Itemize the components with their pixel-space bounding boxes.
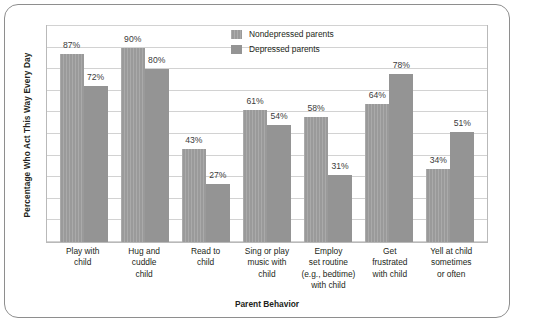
bar[interactable]: 87%	[60, 54, 84, 242]
x-tick-label: Employset routine(e.g., bedtime)with chi…	[298, 246, 359, 292]
x-axis-tick-labels: Play withchildHug andcuddlechildRead toc…	[46, 246, 488, 292]
bar[interactable]: 27%	[206, 184, 230, 242]
bar[interactable]: 78%	[389, 74, 413, 242]
bar[interactable]: 64%	[365, 104, 389, 242]
bar-value-label: 87%	[63, 40, 80, 50]
bar[interactable]: 61%	[243, 110, 267, 242]
bar-value-label: 54%	[270, 111, 287, 121]
bar-value-label: 58%	[308, 103, 325, 113]
bar-value-label: 78%	[393, 60, 410, 70]
bar-value-label: 72%	[87, 72, 104, 82]
x-axis-title: Parent Behavior	[46, 299, 488, 309]
x-tick-label: Read tochild	[175, 246, 236, 292]
bar[interactable]: 51%	[450, 132, 474, 242]
x-tick-label: Hug andcuddlechild	[113, 246, 174, 292]
bar-value-label: 80%	[148, 55, 165, 65]
bar[interactable]: 31%	[328, 175, 352, 242]
legend-swatch-icon	[231, 30, 242, 39]
y-axis-title-text: Percentage Who Act This Way Every Day	[22, 53, 32, 218]
bar-group: 34%51%	[420, 26, 481, 242]
x-tick-label: Getfrustratedwith child	[359, 246, 420, 292]
bar[interactable]: 34%	[426, 169, 450, 242]
bar[interactable]: 80%	[145, 69, 169, 242]
legend-swatch-icon	[231, 45, 242, 54]
bar[interactable]: 43%	[182, 149, 206, 242]
bar-value-label: 34%	[430, 155, 447, 165]
bar[interactable]: 58%	[304, 117, 328, 242]
legend-label: Depressed parents	[249, 44, 320, 54]
bar-value-label: 51%	[454, 118, 471, 128]
bar[interactable]: 54%	[267, 125, 291, 242]
chart-legend: Nondepressed parentsDepressed parents	[231, 29, 334, 59]
bar[interactable]: 90%	[121, 48, 145, 242]
bar-group: 87%72%	[53, 26, 114, 242]
figure-frame: Percentage Who Act This Way Every Day 87…	[4, 4, 510, 318]
x-tick-label: Sing or playmusic withchild	[236, 246, 297, 292]
bar-value-label: 27%	[209, 170, 226, 180]
y-axis-title: Percentage Who Act This Way Every Day	[19, 25, 35, 245]
bar-group: 64%78%	[359, 26, 420, 242]
bar-value-label: 61%	[246, 96, 263, 106]
bar-group: 43%27%	[175, 26, 236, 242]
bar-group: 90%80%	[114, 26, 175, 242]
bar[interactable]: 72%	[84, 86, 108, 242]
bar-value-label: 64%	[369, 90, 386, 100]
bar-value-label: 90%	[124, 34, 141, 44]
legend-label: Nondepressed parents	[249, 29, 334, 39]
legend-item[interactable]: Depressed parents	[231, 44, 334, 54]
bar-value-label: 31%	[332, 161, 349, 171]
legend-item[interactable]: Nondepressed parents	[231, 29, 334, 39]
bar-value-label: 43%	[185, 135, 202, 145]
x-tick-label: Play withchild	[52, 246, 113, 292]
x-tick-label: Yell at childsometimesor often	[421, 246, 482, 292]
